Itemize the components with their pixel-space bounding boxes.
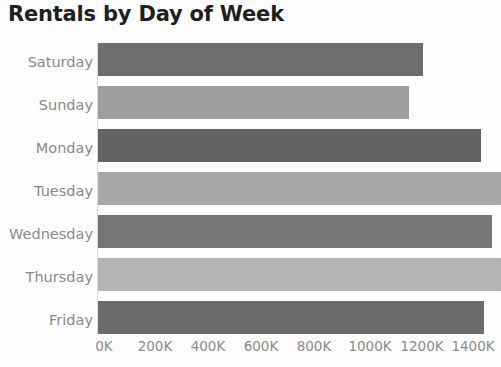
x-tick-label: 600K — [244, 338, 279, 354]
x-tick-label: 1200K — [400, 338, 443, 354]
category-label-monday: Monday — [36, 140, 93, 156]
bar-wednesday[interactable] — [98, 215, 492, 248]
bar-row: Tuesday — [0, 169, 500, 212]
chart-title: Rentals by Day of Week — [8, 2, 284, 26]
bar-row: Wednesday — [0, 212, 500, 255]
x-tick-label: 400K — [191, 338, 226, 354]
category-label-thursday: Thursday — [26, 269, 93, 285]
bar-saturday[interactable] — [98, 43, 423, 76]
bar-monday[interactable] — [98, 129, 481, 162]
bar-row: Saturday — [0, 40, 500, 83]
bar-thursday[interactable] — [98, 258, 501, 291]
bar-row: Sunday — [0, 83, 500, 126]
category-label-tuesday: Tuesday — [34, 183, 93, 199]
category-label-saturday: Saturday — [28, 54, 93, 70]
x-tick-label: 800K — [297, 338, 332, 354]
x-tick-label: 1400K — [451, 338, 494, 354]
bar-sunday[interactable] — [98, 86, 409, 119]
bar-row: Monday — [0, 126, 500, 169]
x-axis: 0K 200K 400K 600K 800K 1000K 1200K 1400K — [0, 338, 500, 364]
category-label-sunday: Sunday — [39, 97, 93, 113]
bar-tuesday[interactable] — [98, 172, 501, 205]
category-label-wednesday: Wednesday — [9, 226, 93, 242]
x-tick-label: 200K — [138, 338, 173, 354]
category-label-friday: Friday — [49, 312, 93, 328]
plot-area: Saturday Sunday Monday Tuesday Wednesday… — [0, 40, 500, 336]
bar-row: Thursday — [0, 255, 500, 298]
x-tick-label: 0K — [95, 338, 112, 354]
x-tick-label: 1000K — [348, 338, 391, 354]
bar-row: Friday — [0, 298, 500, 341]
bar-friday[interactable] — [98, 301, 484, 334]
